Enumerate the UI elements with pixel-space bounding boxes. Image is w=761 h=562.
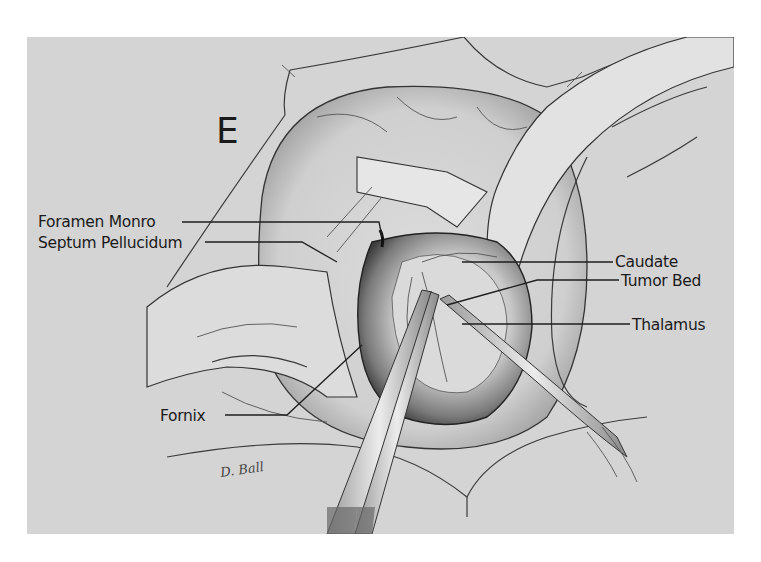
label-foramen-monro: Foramen Monro xyxy=(38,213,155,231)
artist-signature: D. Ball xyxy=(218,459,264,480)
label-thalamus: Thalamus xyxy=(631,316,705,334)
retractor-left xyxy=(147,265,357,397)
label-tumor-bed: Tumor Bed xyxy=(620,272,701,290)
panel-letter: E xyxy=(216,110,239,151)
illustration-panel: E Foramen Monro Septum Pellucidum Caudat… xyxy=(27,37,734,534)
surgical-illustration: E Foramen Monro Septum Pellucidum Caudat… xyxy=(27,37,734,534)
label-fornix: Fornix xyxy=(160,407,206,425)
label-caudate: Caudate xyxy=(615,253,678,271)
label-septum-pellucidum: Septum Pellucidum xyxy=(38,234,182,252)
